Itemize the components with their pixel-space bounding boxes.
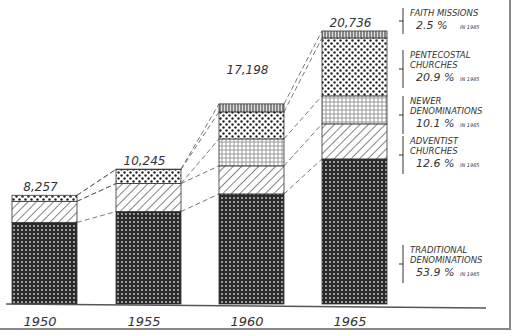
svg-text:2.5 %: 2.5 % xyxy=(416,19,447,32)
bar-segment xyxy=(322,124,387,159)
svg-text:DENOMINATIONS: DENOMINATIONS xyxy=(410,255,483,265)
connector-line xyxy=(284,31,322,104)
bar-total-labels: 8,25710,24517,19820,736 xyxy=(23,16,372,194)
bar-total-label: 8,257 xyxy=(23,180,58,194)
connector-line xyxy=(181,104,219,169)
svg-text:12.6 %: 12.6 % xyxy=(416,157,454,170)
svg-text:IN 1965: IN 1965 xyxy=(460,76,480,82)
frame-border-right xyxy=(509,0,511,330)
connector-line xyxy=(284,159,322,194)
bar-segment xyxy=(12,201,77,222)
x-tick-label: 1960 xyxy=(230,314,263,329)
svg-text:DENOMINATIONS: DENOMINATIONS xyxy=(410,106,483,116)
connector-line xyxy=(181,194,219,212)
x-tick-label: 1965 xyxy=(333,314,366,329)
bar-segment xyxy=(219,194,284,304)
bar-segment xyxy=(219,166,284,194)
bar-segment xyxy=(322,38,387,96)
frame-border-bottom xyxy=(0,328,511,330)
svg-text:TRADITIONAL: TRADITIONAL xyxy=(410,245,468,255)
bar-segment xyxy=(12,222,77,304)
legend-item: NEWERDENOMINATIONS10.1 %IN 1965 xyxy=(399,96,483,134)
x-tick-label: 1950 xyxy=(23,314,56,329)
connector-line xyxy=(181,166,219,184)
bars xyxy=(12,31,387,304)
svg-text:CHURCHES: CHURCHES xyxy=(410,60,458,70)
connector-lines xyxy=(77,31,322,222)
x-tick-label: 1955 xyxy=(127,314,160,329)
connector-line xyxy=(77,212,116,223)
legend-item: TRADITIONALDENOMINATIONS53.9 %IN 1965 xyxy=(399,245,483,283)
bar-segment xyxy=(219,139,284,166)
connector-line xyxy=(284,124,322,166)
svg-text:IN 1965: IN 1965 xyxy=(460,24,480,30)
legend-item: ADVENTISTCHURCHES12.6 %IN 1965 xyxy=(399,136,480,174)
bar-segment xyxy=(322,159,387,304)
svg-text:CHURCHES: CHURCHES xyxy=(410,146,458,156)
svg-text:PENTECOSTAL: PENTECOSTAL xyxy=(410,50,471,60)
connector-line xyxy=(284,38,322,112)
bar-segment xyxy=(322,96,387,124)
connector-line xyxy=(77,170,116,196)
bar-segment xyxy=(116,184,181,212)
connector-line xyxy=(181,112,219,170)
bar-segment xyxy=(219,112,284,139)
bar-segment xyxy=(12,195,77,201)
bar-total-label: 17,198 xyxy=(227,63,269,77)
bar-segment xyxy=(116,170,181,184)
bar-segment xyxy=(116,212,181,304)
svg-text:53.9 %: 53.9 % xyxy=(416,266,454,279)
svg-text:FAITH MISSIONS: FAITH MISSIONS xyxy=(410,8,479,18)
svg-text:IN 1965: IN 1965 xyxy=(460,162,480,168)
bar-total-label: 20,736 xyxy=(330,16,372,30)
svg-text:IN 1965: IN 1965 xyxy=(460,271,480,277)
svg-text:20.9 %: 20.9 % xyxy=(416,71,454,84)
legend: FAITH MISSIONS2.5 %IN 1965PENTECOSTALCHU… xyxy=(399,8,483,283)
bar-segment xyxy=(322,31,387,38)
legend-item: PENTECOSTALCHURCHES20.9 %IN 1965 xyxy=(399,50,480,88)
x-axis-labels: 1950195519601965 xyxy=(23,314,366,329)
svg-text:ADVENTIST: ADVENTIST xyxy=(409,136,459,146)
x-axis xyxy=(6,304,486,308)
bar-total-label: 10,245 xyxy=(124,154,166,168)
legend-item: FAITH MISSIONS2.5 %IN 1965 xyxy=(399,8,480,34)
svg-text:10.1 %: 10.1 % xyxy=(416,117,454,130)
bar-segment xyxy=(219,104,284,112)
svg-text:NEWER: NEWER xyxy=(410,96,442,106)
svg-text:IN 1965: IN 1965 xyxy=(460,122,480,128)
connector-line xyxy=(77,169,116,195)
connector-line xyxy=(284,96,322,139)
stacked-bar-chart: 1950195519601965 8,25710,24517,19820,736… xyxy=(0,0,523,336)
connector-line xyxy=(77,184,116,202)
